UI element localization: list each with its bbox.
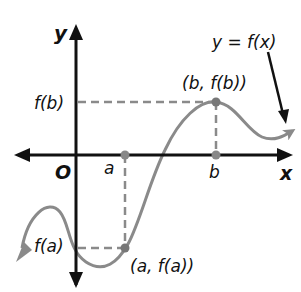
x-axis-left-arrow-icon: [14, 148, 30, 162]
curve-label: y = f(x): [211, 32, 276, 52]
origin-label: O: [55, 161, 71, 183]
tick-label-fa: f(a): [34, 236, 64, 256]
curve-left-arrow-icon: [16, 242, 32, 262]
point-max: [212, 98, 221, 107]
y-axis-down-arrow-icon: [69, 272, 83, 288]
point-label-max: (b, f(b)): [182, 73, 247, 93]
point-min: [121, 244, 130, 253]
tick-label-a: a: [104, 158, 114, 178]
y-axis-up-arrow-icon: [69, 24, 83, 40]
tick-b-dot: [212, 151, 221, 160]
label-pointer: [268, 52, 283, 114]
x-axis-label: x: [279, 162, 293, 184]
x-axis-right-arrow-icon: [277, 148, 293, 162]
dashed-guides: [78, 102, 216, 248]
label-pointer-arrow-icon: [278, 109, 289, 124]
point-label-min: (a, f(a)): [130, 256, 194, 276]
tick-label-b: b: [209, 162, 220, 182]
tick-label-fb: f(b): [34, 93, 64, 113]
tick-a-dot: [121, 151, 130, 160]
function-graph: y x O a b f(b) f(a) (b, f(b)) (a, f(a)) …: [0, 0, 301, 292]
y-axis-label: y: [54, 21, 68, 45]
